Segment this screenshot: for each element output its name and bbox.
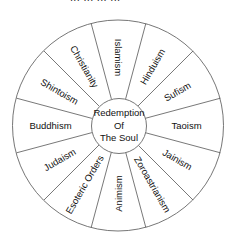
segment-label-buddhism: Buddhism [29, 120, 71, 131]
segment-label-taoism: Taoism [171, 120, 201, 131]
center-label-line-3: The Soul [100, 132, 138, 143]
center-label-line-1: Redemption [93, 107, 144, 118]
segment-label-islamism: Islamism [113, 39, 124, 77]
segment-label-animism: Animism [113, 175, 124, 212]
center-label-line-2: Of [114, 120, 124, 131]
religion-wheel-diagram: IslamismHinduismSufismTaoismJainismZoroa… [0, 0, 236, 242]
